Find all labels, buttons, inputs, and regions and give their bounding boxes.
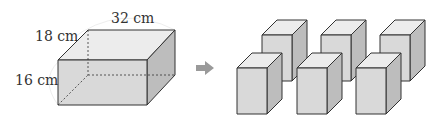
height-label: 16 cm [15, 72, 58, 88]
right-arrow-icon [196, 61, 214, 75]
small-block [297, 53, 342, 114]
small-block [237, 53, 282, 114]
small-blocks [237, 20, 425, 114]
small-block [356, 53, 401, 114]
width-label: 18 cm [35, 28, 78, 44]
length-label: 32 cm [111, 10, 154, 26]
figure: 32 cm 18 cm 16 cm [0, 0, 441, 123]
